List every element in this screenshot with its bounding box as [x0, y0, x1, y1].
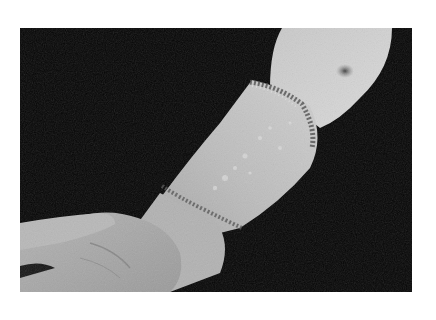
page: Grayscale clinical photograph of a forea…	[0, 0, 436, 320]
forearm-illustration	[20, 28, 412, 292]
clinical-photo: Grayscale clinical photograph of a forea…	[20, 28, 412, 292]
